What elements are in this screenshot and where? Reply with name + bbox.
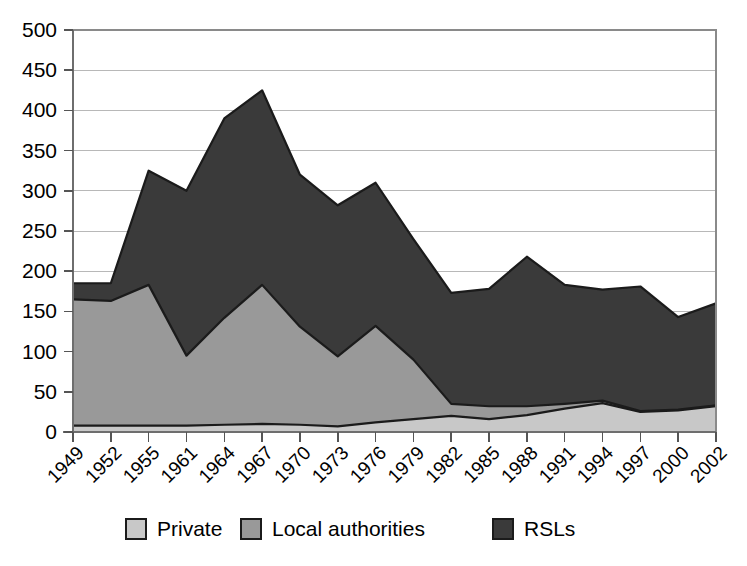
- x-tick-label: 1973: [308, 442, 353, 487]
- legend-swatch-local-authorities: [241, 519, 261, 539]
- x-tick-label: 1979: [383, 442, 428, 487]
- x-tick-label: 1982: [421, 442, 466, 487]
- stacked-area-chart: 050100150200250300350400450500 194919521…: [0, 0, 747, 566]
- y-tick-label: 350: [22, 139, 57, 162]
- x-tick-label: 1967: [232, 442, 277, 487]
- x-tick-label: 1991: [535, 442, 580, 487]
- x-tick-label: 1997: [610, 442, 655, 487]
- x-tick-label: 1955: [119, 442, 164, 487]
- y-tick-label: 150: [22, 299, 57, 322]
- legend-label-private: Private: [157, 517, 222, 540]
- legend-swatch-rsls: [493, 519, 513, 539]
- legend-label-rsls: RSLs: [524, 517, 575, 540]
- y-tick-label: 200: [22, 259, 57, 282]
- chart-legend: PrivateLocal authoritiesRSLs: [126, 517, 575, 540]
- x-tick-label: 1964: [194, 442, 239, 487]
- y-tick-label: 300: [22, 179, 57, 202]
- legend-swatch-private: [126, 519, 146, 539]
- x-tick-label: 1976: [346, 442, 391, 487]
- chart-container: 050100150200250300350400450500 194919521…: [0, 0, 747, 566]
- y-tick-label: 50: [34, 380, 57, 403]
- x-tick-label: 1994: [573, 442, 618, 487]
- x-tick-label: 2002: [686, 442, 731, 487]
- y-tick-label: 500: [22, 18, 57, 41]
- y-tick-label: 100: [22, 340, 57, 363]
- x-tick-label: 1970: [270, 442, 315, 487]
- y-axis-tick-labels: 050100150200250300350400450500: [22, 18, 57, 443]
- x-tick-label: 1988: [497, 442, 542, 487]
- x-axis-tick-labels: 1949195219551961196419671970197319761979…: [43, 442, 731, 487]
- x-tick-label: 1961: [157, 442, 202, 487]
- y-tick-label: 450: [22, 58, 57, 81]
- area-series-group: [73, 90, 716, 432]
- x-tick-label: 1952: [81, 442, 126, 487]
- y-tick-label: 250: [22, 219, 57, 242]
- y-tick-label: 400: [22, 98, 57, 121]
- y-axis-ticks: [64, 30, 73, 432]
- x-tick-label: 1985: [459, 442, 504, 487]
- y-tick-label: 0: [45, 420, 57, 443]
- x-tick-label: 2000: [648, 442, 693, 487]
- x-axis-ticks: [73, 432, 716, 442]
- x-tick-label: 1949: [43, 442, 88, 487]
- legend-label-local-authorities: Local authorities: [272, 517, 425, 540]
